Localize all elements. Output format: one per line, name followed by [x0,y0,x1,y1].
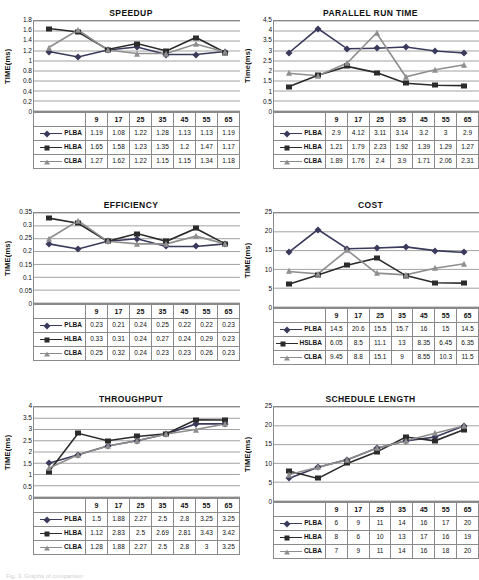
y-tick: 3.5 [263,37,272,44]
plot-area-throughput [33,406,240,498]
y-axis-label-parallel-run-time: Time(ms) [242,20,253,112]
table-row: PLBA1.191.081.221.281.131.131.19 [34,127,240,141]
table-cell: 0.24 [130,319,152,333]
column-header: 55 [196,113,218,127]
table-row: CLBA1.271.621.221.151.151.341.18 [34,155,240,169]
legend-line-icon [40,133,62,134]
legend-hlba: HLBA [274,141,326,155]
data-point-clba [75,217,81,223]
y-tick: 1.8 [23,17,32,24]
table-cell: 1.88 [108,513,130,527]
table-cell: 0.31 [108,333,130,347]
table-cell: 1.15 [174,155,196,169]
table-cell: 8.55 [413,351,435,365]
data-point-hlba [315,476,321,481]
table-cell: 0.29 [196,333,218,347]
table-cell: 1.35 [152,141,174,155]
legend-line-icon [40,161,62,162]
chart-title-schedule-length: SCHEDULE LENGTH [240,394,479,404]
data-point-hlba [134,41,140,46]
y-tick: 0.35 [19,209,32,216]
table-cell: 1.23 [130,141,152,155]
legend-clba: CLBA [274,351,326,365]
plot-area-cost [273,212,479,308]
legend-hlba: HLBA [34,141,86,155]
column-header: 25 [369,503,391,517]
legend-label: PLBA [64,322,82,329]
table-cell: 2.27 [130,513,152,527]
table-cell: 8.8 [347,351,369,365]
table-cell: 0.23 [218,347,240,361]
table-cell: 8.5 [347,337,369,351]
legend-line-icon [40,147,62,148]
table-cell: 2.5 [152,513,174,527]
legend-line-icon [280,329,302,330]
data-point-clba [105,238,111,244]
data-point-clba [286,70,292,76]
table-cell: 6.35 [457,337,479,351]
legend-label: CLBA [304,548,322,555]
table-cell: 1.27 [457,141,479,155]
y-tick: 20 [265,422,272,429]
table-row: PLBA2.94.123.113.143.232.9 [274,127,479,141]
y-tick: 25 [265,209,272,216]
data-point-hslba [432,280,438,285]
y-tick: 1 [28,58,32,65]
y-axis-ticks-cost: 2520151050 [253,212,273,308]
table-cell: 0.32 [108,347,130,361]
table-cell: 6 [325,517,347,531]
table-cell: 15.1 [369,351,391,365]
data-point-clba [75,27,81,33]
column-header: 65 [218,305,240,319]
data-point-clba [75,451,81,457]
data-point-clba [46,465,52,471]
table-corner-cell [34,305,86,319]
table-cell: 1.13 [174,127,196,141]
legend-label: HLBA [304,144,322,151]
data-point-clba [403,438,409,444]
table-cell: 6.45 [435,337,457,351]
column-header: 55 [435,503,457,517]
column-header: 35 [391,503,413,517]
column-header: 9 [86,113,108,127]
table-cell: 0.23 [218,319,240,333]
legend-line-icon [40,339,62,340]
y-tick: 15 [265,247,272,254]
table-cell: 20 [457,517,479,531]
y-tick: 4.5 [263,17,272,24]
data-point-hlba [46,26,52,31]
data-point-clba [344,247,350,253]
table-cell: 14 [391,545,413,559]
table-cell: 2.5 [152,541,174,555]
legend-hslba: HSLBA [274,337,326,351]
legend-diamond-icon [44,516,51,523]
table-cell: 0.23 [218,333,240,347]
data-point-clba [315,72,321,78]
data-point-clba [193,41,199,47]
table-cell: 3.25 [218,541,240,555]
legend-line-icon [280,133,302,134]
legend-label: PLBA [304,520,322,527]
y-axis-label-cost: TIME(ms) [242,212,253,308]
legend-clba: CLBA [34,347,86,361]
legend-diamond-icon [44,130,51,137]
table-cell: 1.89 [325,155,347,169]
table-cell: 4.12 [347,127,369,141]
table-cell: 0.23 [152,347,174,361]
table-row: CLBA0.250.320.240.230.230.260.23 [34,347,240,361]
data-point-clba [403,272,409,278]
chart-title-speedup: SPEEDUP [0,8,240,18]
table-cell: 2.06 [435,155,457,169]
y-tick: 2 [28,449,32,456]
plot-area-schedule-length [273,406,479,502]
y-tick: 20 [265,228,272,235]
table-header-row: 9172535455565 [34,113,240,127]
y-tick: 0 [268,109,272,116]
column-header: 17 [347,503,369,517]
column-header: 65 [218,499,240,513]
y-tick: 4 [268,27,272,34]
table-row: HLBA1.122.832.52.692.813.433.42 [34,527,240,541]
table-cell: 1.79 [347,141,369,155]
table-cell: 2.23 [369,141,391,155]
table-cell: 1.2 [174,141,196,155]
